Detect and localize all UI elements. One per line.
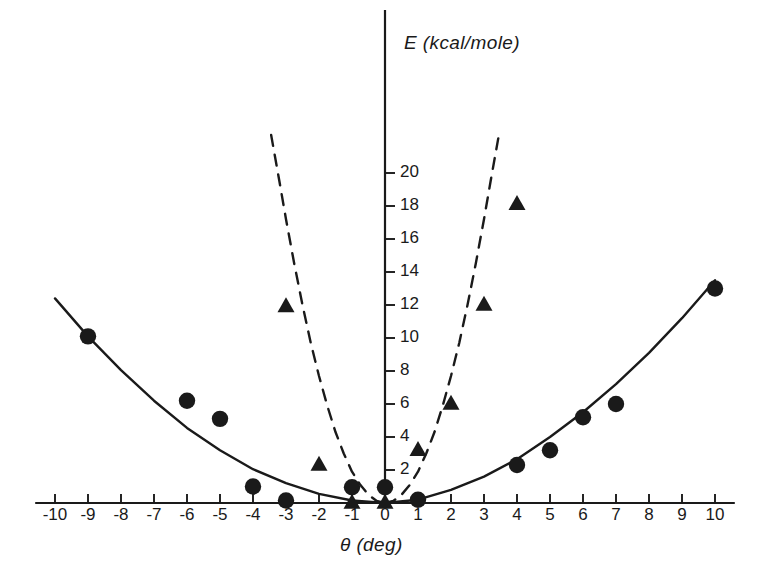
y-tick-label: 12 xyxy=(400,294,430,314)
data-point-circle xyxy=(608,396,624,412)
data-point-circle xyxy=(542,442,558,458)
y-axis-title: E (kcal/mole) xyxy=(404,32,520,54)
data-point-triangle xyxy=(509,195,526,210)
y-axis xyxy=(385,10,395,505)
y-tick-label: 14 xyxy=(400,261,430,281)
data-point-circle xyxy=(344,479,360,495)
y-tick-label: 2 xyxy=(400,459,430,479)
data-point-circle xyxy=(80,328,96,344)
data-point-triangle xyxy=(476,296,493,311)
curve-dashed-curve-right xyxy=(385,135,499,503)
data-point-triangle xyxy=(311,456,328,471)
data-point-circle xyxy=(377,479,393,495)
x-tick-label: 10 xyxy=(695,505,735,525)
figure-container: E (kcal/mole) θ (deg) -10-9-8-7-6-5-4-3-… xyxy=(0,0,763,575)
chart-canvas xyxy=(0,0,763,575)
y-tick-label: 6 xyxy=(400,393,430,413)
curve-dashed-curve-left xyxy=(271,135,385,503)
data-point-circle xyxy=(707,280,723,296)
data-point-triangle xyxy=(278,297,295,312)
x-axis-title: θ (deg) xyxy=(340,534,403,556)
y-tick-label: 10 xyxy=(400,327,430,347)
data-point-circle xyxy=(509,457,525,473)
data-point-circle xyxy=(179,393,195,409)
data-point-circle xyxy=(575,409,591,425)
y-tick-label: 4 xyxy=(400,426,430,446)
y-tick-label: 20 xyxy=(400,162,430,182)
y-tick-label: 8 xyxy=(400,360,430,380)
y-tick-label: 18 xyxy=(400,195,430,215)
y-tick-label: 16 xyxy=(400,228,430,248)
data-point-circle xyxy=(212,411,228,427)
data-point-circle xyxy=(245,478,261,494)
